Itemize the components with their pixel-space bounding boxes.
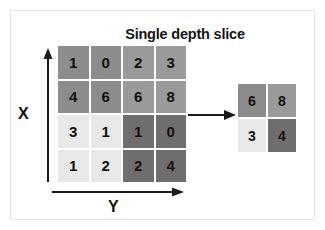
- y-axis-label: Y: [108, 198, 119, 216]
- page-title: Single depth slice: [110, 26, 260, 42]
- input-cell: 0: [91, 46, 122, 79]
- input-cell: 2: [123, 150, 154, 183]
- output-cell: 6: [238, 84, 266, 117]
- input-cell: 3: [58, 115, 89, 148]
- x-axis-label: X: [18, 105, 29, 123]
- input-cell: 8: [156, 81, 187, 114]
- input-cell: 1: [58, 46, 89, 79]
- input-cell: 1: [91, 115, 122, 148]
- input-cell: 6: [123, 81, 154, 114]
- output-cell: 8: [268, 84, 296, 117]
- output-feature-map: 6 8 3 4: [238, 84, 296, 152]
- y-axis-arrow-right-icon: [52, 186, 184, 198]
- input-feature-map: 1 0 2 3 4 6 6 8 3 1 1 0 1 2 2 4: [58, 46, 186, 182]
- input-cell: 3: [156, 46, 187, 79]
- input-cell: 6: [91, 81, 122, 114]
- transform-arrow-right-icon: [188, 108, 236, 122]
- output-cell: 3: [238, 119, 266, 152]
- input-cell: 1: [123, 115, 154, 148]
- output-cell: 4: [268, 119, 296, 152]
- input-cell: 4: [58, 81, 89, 114]
- input-cell: 0: [156, 115, 187, 148]
- input-cell: 2: [91, 150, 122, 183]
- pooling-diagram: Single depth slice X Y 1 0 2 3 4 6 6 8 3…: [0, 0, 325, 230]
- input-cell: 2: [123, 46, 154, 79]
- x-axis-arrow-up-icon: [42, 48, 54, 182]
- input-cell: 4: [156, 150, 187, 183]
- input-cell: 1: [58, 150, 89, 183]
